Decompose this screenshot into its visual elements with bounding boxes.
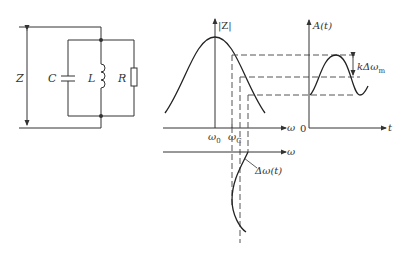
delta-omega-label: Δω(t) [254, 165, 282, 176]
inductor-coil [101, 64, 105, 88]
amplitude-axis-label: A(t) [312, 20, 332, 31]
carrier-frequency-label: ωC [228, 131, 242, 145]
impedance-label: Z [15, 72, 24, 85]
resistor-label: R [117, 72, 126, 85]
origin-label: 0 [300, 123, 306, 134]
projection-lines [232, 55, 360, 243]
impedance-plot [163, 19, 286, 128]
time-axis-label: t [388, 122, 393, 133]
resistor [131, 68, 137, 86]
slope-discriminator-diagram: Z C L R |Z| ω ω0 ωC ω Δω(t) A(t) t 0 kΔω… [0, 0, 398, 258]
capacitor-label: C [48, 72, 57, 85]
inductor-label: L [87, 72, 95, 85]
z-axis-label: |Z| [218, 20, 232, 32]
junction-node-top [99, 38, 103, 42]
frequency-deviation-plot [163, 152, 286, 232]
deviation-annotation: kΔωm [357, 61, 385, 75]
resonance-frequency-label: ω0 [208, 131, 221, 145]
omega-axis-label: ω [287, 122, 295, 133]
junction-node-bottom [99, 114, 103, 118]
omega-axis-lower-label: ω [287, 146, 295, 157]
amplitude-plot [309, 20, 386, 128]
